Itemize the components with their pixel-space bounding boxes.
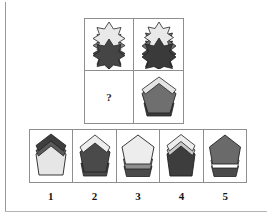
option-label-5: 5 (203, 188, 247, 204)
matrix-cell-answer-slot[interactable]: ? (85, 71, 134, 123)
matrix-cell-bottom-right[interactable] (134, 71, 183, 123)
stacked-star-double-figure (136, 21, 182, 69)
option-4-cell[interactable] (160, 130, 203, 182)
option-3-cell[interactable] (117, 130, 160, 182)
answer-options-strip (29, 129, 247, 183)
stacked-pentagon-figure (138, 75, 180, 119)
pentagon-layer-cap (209, 135, 240, 164)
question-mark: ? (106, 92, 112, 103)
pentagon-layer-cap (122, 135, 154, 164)
stacked-star-triple-figure (86, 21, 132, 69)
option-1-figure (32, 133, 70, 179)
option-5-cell[interactable] (204, 130, 246, 182)
option-4-figure (162, 133, 200, 179)
option-label-4: 4 (160, 188, 204, 204)
matrix-grid: ? (84, 18, 184, 124)
option-2-cell[interactable] (73, 130, 116, 182)
option-label-2: 2 (73, 188, 117, 204)
page-frame-bottom-rule (5, 211, 267, 212)
option-label-1: 1 (29, 188, 73, 204)
option-label-3: 3 (116, 188, 160, 204)
option-5-figure (206, 133, 244, 179)
matrix-cell-top-right[interactable] (134, 19, 183, 71)
page-frame-left-rule (5, 2, 6, 212)
option-2-figure (76, 133, 114, 179)
option-1-cell[interactable] (30, 130, 73, 182)
option-3-figure (119, 133, 157, 179)
matrix-cell-top-left[interactable] (85, 19, 134, 71)
answer-option-labels: 1 2 3 4 5 (29, 188, 247, 204)
